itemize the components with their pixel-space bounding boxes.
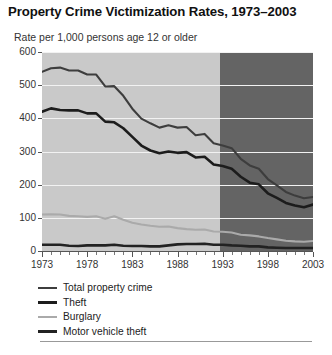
x-axis-label: 1998 bbox=[248, 259, 288, 270]
y-axis-label: 0 bbox=[2, 245, 36, 256]
chart-page: Property Crime Victimization Rates, 1973… bbox=[0, 0, 332, 355]
legend-item-label: Burglary bbox=[63, 312, 101, 322]
x-axis-tick-minor bbox=[114, 252, 115, 255]
series-lines bbox=[42, 52, 313, 251]
x-axis-tick-minor bbox=[205, 252, 206, 255]
y-axis-tick bbox=[38, 152, 42, 153]
x-axis-tick-minor bbox=[232, 252, 233, 255]
x-axis-tick-minor bbox=[250, 252, 251, 255]
legend-line-icon bbox=[38, 316, 57, 318]
y-axis-tick bbox=[38, 118, 42, 119]
series-line bbox=[42, 108, 313, 207]
x-axis-tick-minor bbox=[187, 252, 188, 255]
chart-legend: Total property crimeTheftBurglaryMotor v… bbox=[38, 281, 318, 339]
legend-line-icon bbox=[38, 301, 57, 304]
x-axis-tick-minor bbox=[78, 252, 79, 255]
line-chart: 0100200300400500600 19731978198319881993… bbox=[0, 0, 332, 270]
y-axis-label: 300 bbox=[2, 146, 36, 157]
x-axis-tick-minor bbox=[51, 252, 52, 255]
y-axis-label: 600 bbox=[2, 46, 36, 57]
plot-area bbox=[42, 52, 313, 251]
legend-item[interactable]: Theft bbox=[38, 296, 318, 311]
x-axis-label: 1978 bbox=[67, 259, 107, 270]
series-line bbox=[42, 244, 313, 248]
legend-line-icon bbox=[38, 330, 57, 333]
legend-item[interactable]: Total property crime bbox=[38, 281, 318, 296]
y-axis-label: 100 bbox=[2, 212, 36, 223]
x-axis-tick-minor bbox=[304, 252, 305, 255]
series-line bbox=[42, 214, 313, 242]
x-axis-label: 1988 bbox=[158, 259, 198, 270]
x-axis-tick-major bbox=[268, 252, 269, 257]
x-axis-tick-minor bbox=[286, 252, 287, 255]
x-axis-tick-minor bbox=[168, 252, 169, 255]
x-axis-tick-minor bbox=[196, 252, 197, 255]
series-line bbox=[42, 68, 313, 199]
x-axis-tick-major bbox=[87, 252, 88, 257]
x-axis-label: 1983 bbox=[112, 259, 152, 270]
x-axis-label: 1973 bbox=[22, 259, 62, 270]
y-axis-label: 400 bbox=[2, 112, 36, 123]
legend-item-label: Motor vehicle theft bbox=[63, 327, 146, 337]
x-axis-tick-major bbox=[42, 252, 43, 257]
x-axis-tick-minor bbox=[277, 252, 278, 255]
x-axis-tick-minor bbox=[69, 252, 70, 255]
y-axis-label: 200 bbox=[2, 179, 36, 190]
x-axis-tick-minor bbox=[150, 252, 151, 255]
x-axis-tick-minor bbox=[123, 252, 124, 255]
x-axis-label: 1993 bbox=[203, 259, 243, 270]
x-axis-tick-minor bbox=[214, 252, 215, 255]
legend-line-icon bbox=[38, 287, 57, 289]
x-axis-tick-minor bbox=[259, 252, 260, 255]
x-axis-tick-major bbox=[132, 252, 133, 257]
footer-divider bbox=[40, 341, 312, 342]
y-axis-tick bbox=[38, 85, 42, 86]
x-axis-tick-minor bbox=[141, 252, 142, 255]
x-axis-tick-minor bbox=[96, 252, 97, 255]
legend-item[interactable]: Motor vehicle theft bbox=[38, 325, 318, 340]
legend-item-label: Theft bbox=[63, 298, 86, 308]
x-axis-label: 2003 bbox=[293, 259, 332, 270]
x-axis-tick-minor bbox=[105, 252, 106, 255]
x-axis-tick-major bbox=[223, 252, 224, 257]
y-axis-tick bbox=[38, 52, 42, 53]
y-axis-tick bbox=[38, 218, 42, 219]
legend-item[interactable]: Burglary bbox=[38, 310, 318, 325]
legend-item-label: Total property crime bbox=[63, 283, 152, 293]
x-axis-tick-minor bbox=[295, 252, 296, 255]
y-axis-label: 500 bbox=[2, 79, 36, 90]
x-axis-tick-minor bbox=[60, 252, 61, 255]
x-axis-tick-major bbox=[178, 252, 179, 257]
y-axis-tick bbox=[38, 185, 42, 186]
x-axis-tick-minor bbox=[159, 252, 160, 255]
x-axis-tick-major bbox=[313, 252, 314, 257]
x-axis-tick-minor bbox=[241, 252, 242, 255]
